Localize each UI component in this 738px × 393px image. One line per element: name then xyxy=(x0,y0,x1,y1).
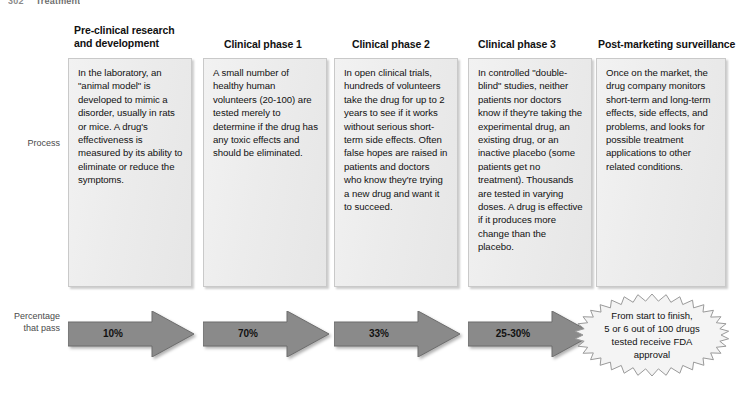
row-label-percentage-that-pass: Percentage that pass xyxy=(4,310,60,334)
process-box-post-marketing: Once on the market, the drug company mon… xyxy=(596,58,726,287)
starburst-shape-icon xyxy=(573,293,731,377)
process-box-clinical-phase-1-text: A small number of healthy human voluntee… xyxy=(213,66,318,160)
column-header-clinical-phase-2-line1: Clinical phase 2 xyxy=(352,38,472,51)
column-header-post-marketing: Post-marketing surveillance xyxy=(598,38,738,51)
row-label-process: Process xyxy=(8,137,60,149)
column-header-pre-clinical: Pre-clinical research and development xyxy=(74,24,204,50)
process-box-clinical-phase-1: A small number of healthy human voluntee… xyxy=(203,58,327,287)
row-label-percentage-line2: that pass xyxy=(4,322,60,334)
process-box-pre-clinical-text: In the laboratory, an "animal model" is … xyxy=(78,66,183,187)
column-header-clinical-phase-2: Clinical phase 2 xyxy=(352,38,472,51)
flow-arrow-pre-clinical xyxy=(68,311,194,357)
process-box-pre-clinical: In the laboratory, an "animal model" is … xyxy=(68,58,192,287)
column-header-clinical-phase-1: Clinical phase 1 xyxy=(224,38,344,51)
process-box-clinical-phase-3-text: In controlled "double-blind" studies, ne… xyxy=(478,66,583,254)
process-box-clinical-phase-3: In controlled "double-blind" studies, ne… xyxy=(468,58,592,287)
column-header-post-marketing-line1: Post-marketing surveillance xyxy=(598,38,738,51)
row-label-percentage-line1: Percentage xyxy=(4,310,60,322)
column-header-pre-clinical-line1: Pre-clinical research xyxy=(74,24,204,37)
column-header-clinical-phase-3: Clinical phase 3 xyxy=(478,38,598,51)
process-box-clinical-phase-2-text: In open clinical trials, hundreds of vol… xyxy=(344,66,449,213)
process-box-post-marketing-text: Once on the market, the drug company mon… xyxy=(606,66,717,173)
outcome-starburst-badge: From start to finish, 5 or 6 out of 100 … xyxy=(573,293,731,377)
flow-arrow-clinical-phase-1 xyxy=(203,311,329,357)
flow-arrow-clinical-phase-2 xyxy=(334,311,460,357)
column-header-clinical-phase-1-line1: Clinical phase 1 xyxy=(224,38,344,51)
process-box-clinical-phase-2: In open clinical trials, hundreds of vol… xyxy=(334,58,458,287)
running-head-title: Treatment xyxy=(36,0,81,6)
running-head: 302 Treatment xyxy=(8,0,80,8)
column-header-clinical-phase-3-line1: Clinical phase 3 xyxy=(478,38,598,51)
running-head-page-number: 302 xyxy=(8,0,24,6)
column-header-pre-clinical-line2: and development xyxy=(74,37,204,50)
